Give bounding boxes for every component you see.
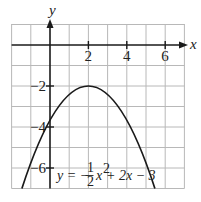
- equation-lhs: y = −: [55, 168, 89, 183]
- x-axis-arrow-icon: [179, 42, 188, 49]
- x-tick-label-4: 4: [123, 48, 131, 64]
- y-tick-label-neg2: −2: [30, 78, 46, 94]
- y-axis: y −2 −4 −6: [30, 2, 56, 189]
- y-tick-label-neg6: −6: [30, 160, 46, 176]
- x-axis-label: x: [189, 36, 197, 52]
- x-axis: x 2 4 6: [12, 36, 197, 64]
- equation-x: x: [95, 168, 103, 183]
- x-tick-label-2: 2: [85, 48, 93, 64]
- equation-rest: + 2x − 3: [106, 168, 156, 183]
- equation-fraction-numerator: 1: [87, 160, 94, 175]
- graph-canvas: x 2 4 6 y −2 −4 −6 y = − 1 2 x 2 + 2x − …: [0, 0, 201, 202]
- y-axis-arrow-icon: [47, 19, 54, 28]
- equation-label: y = − 1 2 x 2 + 2x − 3: [55, 160, 156, 189]
- equation-fraction-denominator: 2: [87, 174, 94, 189]
- y-axis-label: y: [47, 2, 56, 18]
- x-tick-label-6: 6: [161, 48, 169, 64]
